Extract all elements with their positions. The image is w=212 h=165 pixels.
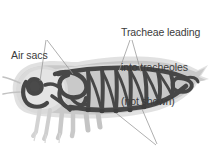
- tracheae-label-line-2: into tracheoles: [121, 62, 200, 74]
- tracheae-label: Tracheae leading into tracheoles (not sh…: [121, 4, 200, 131]
- insect-tracheal-system-figure: Air sacs Tracheae leading into tracheole…: [0, 0, 212, 165]
- tracheae-label-line-3: (not shown): [121, 96, 200, 108]
- tracheae-label-line-1: Tracheae leading: [121, 27, 200, 39]
- air-sacs-label-text: Air sacs: [11, 50, 48, 62]
- spiracles-label: Spiracles: [158, 147, 200, 165]
- air-sacs-label: Air sacs: [11, 27, 48, 85]
